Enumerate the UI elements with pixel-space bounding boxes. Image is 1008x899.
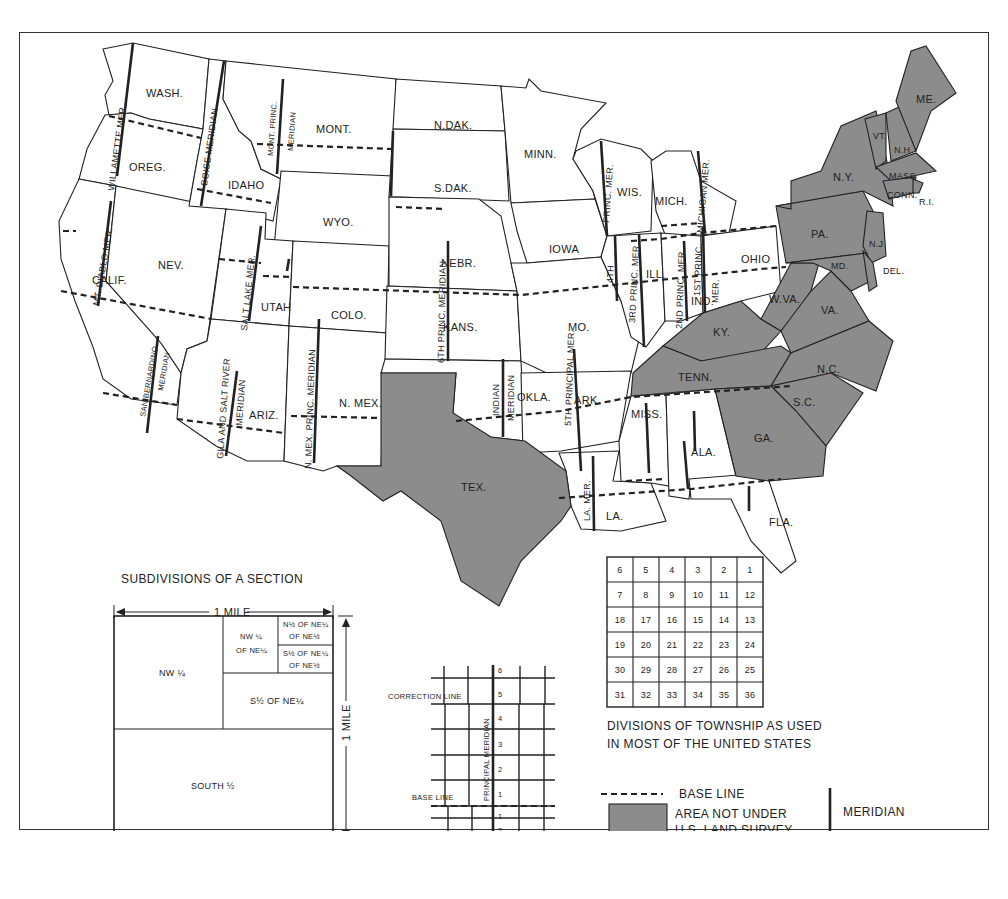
township-caption-line-2: IN MOST OF THE UNITED STATES: [607, 737, 811, 751]
label-ri: R.I.: [919, 197, 934, 207]
label-ohio: OHIO: [741, 253, 770, 265]
township-caption-line-1: DIVISIONS OF TOWNSHIP AS USED: [607, 719, 822, 733]
section-18: 18: [615, 615, 626, 625]
section-32: 32: [641, 690, 652, 700]
label-me: ME.: [916, 93, 936, 105]
section-20: 20: [641, 640, 652, 650]
label-mich: MICH.: [655, 195, 688, 207]
legend-not-surveyed-2: U.S. LAND SURVEY: [675, 823, 793, 831]
label-conn: CONN.: [887, 190, 918, 200]
label-s-half-of-ne: S½ OF NE¼: [250, 696, 304, 706]
state-nebr: [389, 197, 517, 291]
label-va: VA.: [821, 304, 839, 316]
label-4th: 4TH: [605, 265, 616, 283]
label-nj: N.J: [869, 239, 883, 249]
section-35: 35: [719, 690, 730, 700]
correction-line-label: CORRECTION LINE: [388, 692, 462, 701]
section-5: 5: [643, 565, 648, 575]
section-diagram-title: SUBDIVISIONS OF A SECTION: [121, 572, 303, 586]
section-4: 4: [669, 565, 674, 575]
legend: BASE LINE AREA NOT UNDER U.S. LAND SURVE…: [601, 787, 905, 831]
section-13: 13: [745, 615, 756, 625]
label-ga: GA.: [754, 432, 774, 444]
label-n-half-ne-2: OF NE½: [289, 632, 320, 641]
label-sc: S.C.: [793, 396, 816, 408]
label-wis: WIS.: [617, 186, 642, 198]
label-okla: OKLA.: [517, 391, 551, 403]
label-wyo: WYO.: [323, 216, 354, 228]
label-ndak: N.DAK.: [434, 119, 472, 131]
label-idaho: IDAHO: [228, 179, 264, 191]
section-8: 8: [643, 590, 648, 600]
label-ill: ILL.: [646, 268, 666, 280]
label-del: DEL.: [883, 266, 904, 276]
legend-not-surveyed-1: AREA NOT UNDER: [675, 807, 787, 821]
label-kans: KANS.: [443, 321, 478, 333]
township-grid-diagram: 6 5 4 3 2 1 1 2 CORRECTION LINE BASE LIN…: [388, 665, 555, 831]
section-30: 30: [615, 665, 626, 675]
figure-caption-truncated: [30, 880, 990, 899]
label-oreg: OREG.: [129, 161, 166, 173]
label-1st-mer: MER.: [710, 279, 721, 303]
tier-n1: 1: [498, 790, 502, 799]
section-22: 22: [693, 640, 704, 650]
label-iowa: IOWA: [549, 243, 579, 255]
label-nw-of-ne-1: NW ¼: [240, 632, 262, 641]
section-15: 15: [693, 615, 704, 625]
label-ark: ARK.: [574, 394, 601, 406]
label-miss: MISS.: [631, 408, 662, 420]
legend-meridian: MERIDIAN: [843, 805, 905, 819]
section-16: 16: [667, 615, 678, 625]
label-indian: INDIAN: [491, 384, 501, 416]
label-indian-meridian: MERIDIAN: [506, 375, 516, 421]
label-south-half: SOUTH ½: [191, 781, 235, 791]
label-nh: N.H.: [894, 145, 913, 155]
section-17: 17: [641, 615, 652, 625]
label-colo: COLO.: [331, 309, 367, 321]
township-sections-grid: 6 5 4 3 2 1 7 8 9 10 11 12 18 17 16 15 1…: [607, 557, 822, 751]
label-minn: MINN.: [524, 148, 557, 160]
label-mass: MASS: [889, 171, 916, 181]
tier-s1: 1: [498, 812, 502, 821]
tier-n2: 2: [498, 765, 502, 774]
section-33: 33: [667, 690, 678, 700]
label-ala: ALA.: [691, 446, 716, 458]
tier-s2: 2: [498, 826, 502, 831]
tier-n4: 4: [498, 714, 502, 723]
label-wash: WASH.: [146, 87, 183, 99]
section-11: 11: [719, 590, 729, 600]
base-line-label: BASE LINE: [412, 793, 453, 802]
section-24: 24: [745, 640, 756, 650]
label-fla: FLA.: [769, 516, 793, 528]
label-n-half-ne-1: N½ OF NE¼: [283, 620, 329, 629]
tier-n6: 6: [498, 666, 502, 675]
label-1st-princ: 1ST PRINC.: [692, 243, 704, 296]
section-1: 1: [747, 565, 752, 575]
us-map: WASH. OREG. CALIF. NEV. IDAHO MONT. WYO.…: [20, 33, 990, 831]
label-s-half-ne-1: S½ OF NE¼: [283, 649, 329, 658]
label-tex: TEX.: [461, 481, 487, 493]
label-s-half-ne-2: OF NE½: [289, 661, 320, 670]
section-7: 7: [617, 590, 622, 600]
label-nw-quarter: NW ¼: [159, 668, 185, 678]
section-2: 2: [721, 565, 726, 575]
height-1-mile-label: 1 MILE: [340, 704, 352, 741]
section-36: 36: [745, 690, 756, 700]
label-6th-princ-meridian: 6TH PRINC. MERIDIAN: [436, 261, 448, 363]
label-md: MD.: [831, 261, 848, 271]
label-ariz: ARIZ.: [249, 409, 279, 421]
section-6: 6: [617, 565, 622, 575]
section-21: 21: [667, 640, 678, 650]
section-27: 27: [693, 665, 704, 675]
not-surveyed-swatch: [609, 804, 667, 831]
tier-n5: 5: [498, 690, 502, 699]
section-31: 31: [615, 690, 626, 700]
label-la: LA.: [606, 510, 623, 522]
section-26: 26: [719, 665, 730, 675]
label-nc: N.C.: [817, 363, 840, 375]
label-ny: N.Y.: [833, 171, 854, 183]
section-29: 29: [641, 665, 652, 675]
label-tenn: TENN.: [678, 371, 713, 383]
label-nw-of-ne-2: OF NE¼: [236, 646, 267, 655]
section-9: 9: [669, 590, 674, 600]
